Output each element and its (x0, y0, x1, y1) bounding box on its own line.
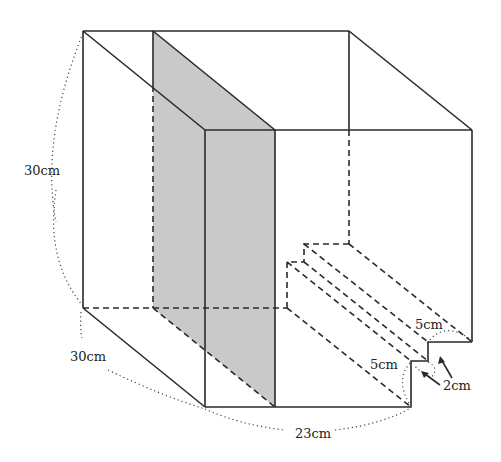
step-upper-label: 5cm (415, 317, 443, 332)
partition-shade (153, 31, 275, 407)
width-label: 23cm (295, 426, 331, 441)
figure-stage: 30cm 30cm 23cm 5cm 5cm 2cm (0, 0, 501, 462)
height-label: 30cm (24, 163, 60, 178)
step-rise-label: 2cm (443, 378, 471, 393)
box-diagram (0, 0, 501, 462)
depth-label: 30cm (70, 349, 106, 364)
step-lower-label: 5cm (370, 357, 398, 372)
